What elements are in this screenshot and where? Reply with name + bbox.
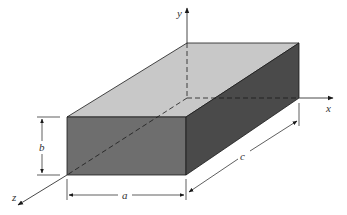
front-face <box>67 117 186 175</box>
z-axis <box>18 175 67 205</box>
z-axis-label: z <box>11 191 17 203</box>
box-diagram: y x z b a c <box>0 0 347 215</box>
y-axis-label: y <box>176 7 182 19</box>
x-axis-label: x <box>325 102 331 114</box>
b-label: b <box>39 141 45 153</box>
c-label: c <box>240 150 245 162</box>
a-label: a <box>122 189 128 201</box>
